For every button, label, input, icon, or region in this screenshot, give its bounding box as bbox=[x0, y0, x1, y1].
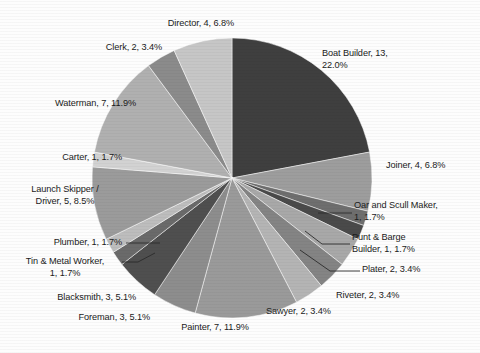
pie-label-tin-and-metal-worker: Tin & Metal Worker, 1, 1.7% bbox=[8, 256, 122, 279]
pie-label-carter: Carter, 1, 1.7% bbox=[14, 152, 122, 164]
pie-chart-figure: Boat Builder, 13, 22.0%Joiner, 4, 6.8%Oa… bbox=[0, 0, 480, 353]
pie-label-painter: Painter, 7, 11.9% bbox=[155, 322, 275, 334]
pie-slice-group: Boat Builder, 13, 22.0%Joiner, 4, 6.8%Oa… bbox=[92, 38, 372, 318]
pie-label-waterman: Waterman, 7, 11.9% bbox=[14, 98, 136, 110]
pie-label-sawyer: Sawyer, 2, 3.4% bbox=[266, 306, 368, 318]
pie-label-plumber: Plumber, 1, 1.7% bbox=[18, 237, 122, 249]
pie-label-blacksmith: Blacksmith, 3, 5.1% bbox=[18, 292, 136, 304]
pie-label-boat-builder: Boat Builder, 13, 22.0% bbox=[322, 48, 414, 71]
pie-label-launch-skipper-driver: Launch Skipper / Driver, 5, 8.5% bbox=[6, 184, 124, 207]
pie-label-plater: Plater, 2, 3.4% bbox=[362, 264, 472, 276]
pie-label-riveter: Riveter, 2, 3.4% bbox=[336, 290, 442, 302]
pie-label-oar-and-scull-maker: Oar and Scull Maker, 1, 1.7% bbox=[354, 200, 480, 223]
pie-label-joiner: Joiner, 4, 6.8% bbox=[386, 160, 480, 172]
pie-label-punt-and-barge-builder: Punt & Barge Builder, 1, 1.7% bbox=[352, 232, 472, 255]
pie-label-foreman: Foreman, 3, 5.1% bbox=[40, 312, 150, 324]
pie-label-clerk: Clerk, 2, 3.4% bbox=[58, 42, 162, 54]
pie-label-director: Director, 4, 6.8% bbox=[122, 18, 234, 30]
